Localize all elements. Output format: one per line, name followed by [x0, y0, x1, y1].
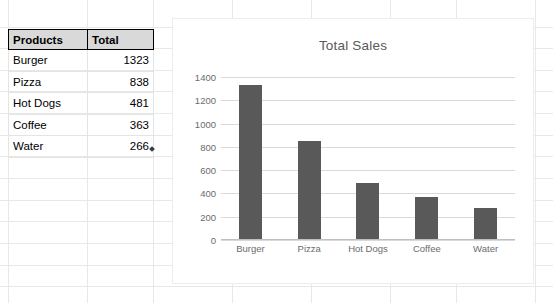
column-header-products: Products — [9, 30, 88, 50]
chart-x-tick-label: Water — [456, 243, 515, 254]
chart-x-tick-label: Burger — [221, 243, 280, 254]
chart-x-tick-label: Pizza — [280, 243, 339, 254]
spreadsheet-screenshot: Products Total Burger 1323 Pizza 838 Hot… — [0, 0, 553, 303]
chart-bar[interactable] — [415, 197, 438, 239]
chart-bar[interactable] — [474, 208, 497, 239]
chart-title: Total Sales — [173, 38, 533, 53]
cell-product-total[interactable]: 363 — [88, 114, 154, 136]
chart-y-tick-label: 200 — [176, 211, 216, 222]
chart-bar[interactable] — [356, 183, 379, 239]
chart-plot-area: 1400120010008006004002000 — [221, 77, 515, 240]
chart-y-tick-label: 1200 — [176, 95, 216, 106]
chart-x-axis-line — [221, 239, 515, 240]
chart-bar-slot — [221, 77, 280, 239]
table-header-row: Products Total — [9, 30, 154, 50]
chart-y-tick-label: 0 — [176, 235, 216, 246]
products-total-table[interactable]: Products Total Burger 1323 Pizza 838 Hot… — [8, 29, 154, 158]
chart-x-tick-label: Coffee — [397, 243, 456, 254]
cell-product-name[interactable]: Pizza — [9, 71, 88, 93]
table-row[interactable]: Hot Dogs 481 — [9, 93, 154, 115]
cell-product-total[interactable]: 266 — [88, 136, 154, 158]
chart-bar-slot — [339, 77, 398, 239]
chart-bars — [221, 77, 515, 239]
chart-bar-slot — [456, 77, 515, 239]
chart-y-tick-label: 800 — [176, 141, 216, 152]
chart-y-tick-label: 1000 — [176, 118, 216, 129]
chart-gridline — [221, 240, 515, 241]
column-header-total: Total — [88, 30, 154, 50]
cell-product-total[interactable]: 1323 — [88, 50, 154, 72]
cell-product-name[interactable]: Water — [9, 136, 88, 158]
table-row[interactable]: Water 266 — [9, 136, 154, 158]
chart-x-tick-label: Hot Dogs — [339, 243, 398, 254]
table-row[interactable]: Burger 1323 — [9, 50, 154, 72]
cell-product-name[interactable]: Hot Dogs — [9, 93, 88, 115]
chart-bar[interactable] — [298, 141, 321, 239]
chart-y-tick-label: 600 — [176, 165, 216, 176]
chart-bar[interactable] — [239, 85, 262, 239]
total-sales-chart[interactable]: Total Sales 1400120010008006004002000 Bu… — [172, 18, 534, 284]
table-row[interactable]: Coffee 363 — [9, 114, 154, 136]
chart-bar-slot — [280, 77, 339, 239]
cell-product-name[interactable]: Burger — [9, 50, 88, 72]
cell-product-total[interactable]: 481 — [88, 93, 154, 115]
chart-y-tick-label: 1400 — [176, 72, 216, 83]
cell-product-total[interactable]: 838 — [88, 71, 154, 93]
chart-x-axis-labels: BurgerPizzaHot DogsCoffeeWater — [221, 243, 515, 254]
cell-product-name[interactable]: Coffee — [9, 114, 88, 136]
table-row[interactable]: Pizza 838 — [9, 71, 154, 93]
chart-bar-slot — [397, 77, 456, 239]
chart-y-tick-label: 400 — [176, 188, 216, 199]
